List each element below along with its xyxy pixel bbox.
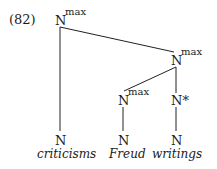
right-phrase-superscript: max: [181, 47, 202, 57]
n-star-node: N*: [171, 94, 189, 107]
example-number: (82): [9, 13, 36, 26]
word-freud: Freud: [109, 148, 146, 160]
root-node-superscript: max: [65, 7, 86, 17]
leaf-node-freud: N: [118, 134, 129, 147]
word-writings: writings: [152, 148, 202, 160]
freud-phrase-superscript: max: [128, 87, 149, 97]
word-criticisms: criticisms: [37, 148, 96, 160]
leaf-node-writings: N: [171, 134, 182, 147]
leaf-node-criticisms: N: [55, 134, 66, 147]
